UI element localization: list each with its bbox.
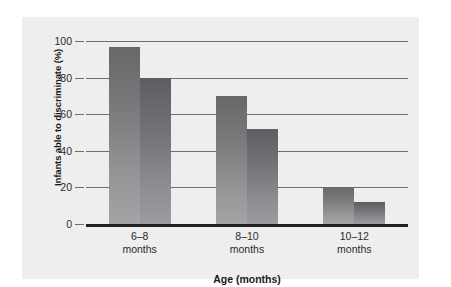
plot-area: 020406080100 6–8 months8–10 months10–12 … xyxy=(86,41,408,224)
bar xyxy=(323,187,354,224)
x-axis-group-label: 6–8 months xyxy=(95,230,185,255)
bar xyxy=(109,47,140,225)
y-axis-tick-mark xyxy=(75,78,84,79)
y-axis-tick-label: 0 xyxy=(66,218,72,230)
chart-figure: Infants able to discriminate (%) 0204060… xyxy=(0,0,451,287)
y-axis-tick-mark xyxy=(75,187,84,188)
bar xyxy=(247,129,278,224)
y-axis-tick-label: 20 xyxy=(60,181,72,193)
y-axis-tick-label: 40 xyxy=(60,145,72,157)
y-axis-tick-label: 80 xyxy=(60,72,72,84)
y-axis-tick-label: 100 xyxy=(54,35,72,47)
x-axis-group-label: 10–12 months xyxy=(309,230,399,255)
y-axis-tick-label: 60 xyxy=(60,108,72,120)
chart-panel: Infants able to discriminate (%) 0204060… xyxy=(22,17,419,279)
x-axis-title: Age (months) xyxy=(86,273,408,285)
bar xyxy=(140,78,171,224)
y-axis-tick-mark xyxy=(75,41,84,42)
y-axis-tick-mark xyxy=(75,224,84,225)
y-axis-tick-mark xyxy=(75,114,84,115)
x-axis-group-label: 8–10 months xyxy=(202,230,292,255)
bar xyxy=(354,202,385,224)
bar xyxy=(216,96,247,224)
x-axis-line xyxy=(86,224,408,227)
y-axis-tick-mark xyxy=(75,151,84,152)
gridline xyxy=(86,41,408,42)
